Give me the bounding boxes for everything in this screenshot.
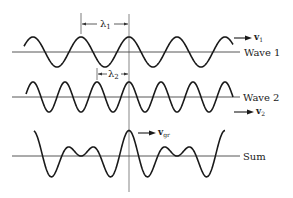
svg-text:vgr: vgr bbox=[157, 127, 170, 139]
group-velocity-arrow: vgr bbox=[138, 127, 170, 139]
velocity2-arrow: v2 bbox=[234, 106, 265, 117]
wave2-label: Wave 2 bbox=[243, 92, 279, 103]
svg-text:λ1: λ1 bbox=[100, 18, 111, 31]
svg-text:v1: v1 bbox=[253, 32, 263, 43]
wave-superposition-diagram: λ1 λ2 v1 Wave 1 Wave 2 v2 vgr Sum bbox=[0, 0, 293, 198]
sum-label: Sum bbox=[243, 151, 266, 162]
velocity1-arrow: v1 bbox=[234, 32, 263, 43]
sum-curve bbox=[34, 131, 225, 177]
svg-text:λ2: λ2 bbox=[108, 68, 119, 81]
wavelength2-marker: λ2 bbox=[97, 68, 128, 81]
wave1-label: Wave 1 bbox=[244, 47, 280, 58]
wavelength1-marker: λ1 bbox=[81, 13, 128, 34]
svg-text:v2: v2 bbox=[255, 106, 265, 117]
